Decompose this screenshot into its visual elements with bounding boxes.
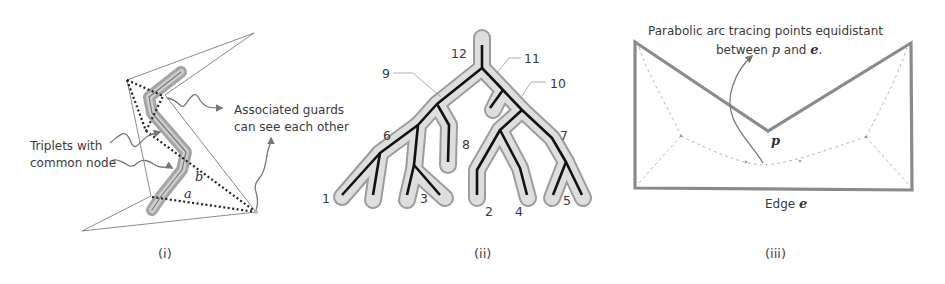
panel-iii: Parabolic arc tracing points equidistant… <box>635 24 912 261</box>
caption-ii: (ii) <box>474 246 491 261</box>
tree-skeleton <box>342 45 582 195</box>
guards-label-line2: can see each other <box>234 120 349 134</box>
tree-halo <box>342 38 583 200</box>
guards-label-line1: Associated guards <box>234 103 344 117</box>
node-label-2: 2 <box>485 204 493 219</box>
node-label-12: 12 <box>451 46 467 61</box>
node-label-3: 3 <box>420 191 428 206</box>
guard-point <box>254 210 258 214</box>
figure-canvas: b a Triplets with common node Associated… <box>0 0 945 284</box>
concave-polygon <box>635 42 912 190</box>
caption-i: (i) <box>158 246 172 261</box>
vertex-label-p: p <box>771 133 780 148</box>
node-label-11: 11 <box>524 51 540 66</box>
panel-ii: 12 11 9 10 6 7 8 1 3 2 4 5 (ii) <box>322 38 583 261</box>
parabola-label-line1: Parabolic arc tracing points equidistant <box>648 24 883 38</box>
node-label-1: 1 <box>322 191 330 206</box>
node-label-9: 9 <box>382 66 390 81</box>
guards-arrow-2 <box>255 138 271 210</box>
node-label-8: 8 <box>462 137 470 152</box>
edge-label: Edge e <box>765 196 807 211</box>
label-b: b <box>195 169 203 184</box>
node-label-4: 4 <box>515 204 523 219</box>
guards-arrow-1 <box>167 95 222 108</box>
caption-iii: (iii) <box>765 246 786 261</box>
node-label-10: 10 <box>550 76 566 91</box>
triplets-arrow-2 <box>113 160 172 168</box>
label-a: a <box>184 186 192 201</box>
node-label-5: 5 <box>563 193 571 208</box>
node-label-6: 6 <box>383 128 391 143</box>
parabola-label-line2: between p and e. <box>716 42 822 57</box>
panel-i: b a Triplets with common node Associated… <box>29 33 349 261</box>
triplets-arrow-1 <box>110 132 160 147</box>
triplets-label-line1: Triplets with <box>29 139 102 153</box>
node-label-7: 7 <box>560 128 568 143</box>
triplets-label-line2: common node <box>30 156 116 170</box>
